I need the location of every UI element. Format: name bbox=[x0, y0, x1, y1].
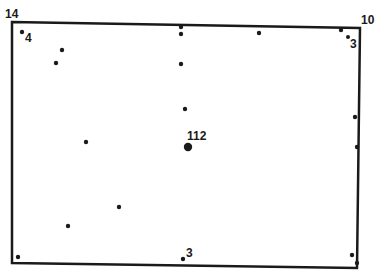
data-point bbox=[355, 145, 359, 149]
data-point bbox=[66, 224, 70, 228]
data-point bbox=[54, 61, 58, 65]
point-count-label: 3 bbox=[350, 37, 357, 51]
data-point bbox=[350, 253, 354, 257]
data-point bbox=[16, 255, 20, 259]
data-point bbox=[353, 115, 357, 119]
corner-label-top-left: 14 bbox=[5, 7, 19, 21]
data-point bbox=[183, 107, 187, 111]
data-point bbox=[355, 261, 359, 265]
data-point bbox=[179, 32, 183, 36]
data-point bbox=[179, 62, 183, 66]
data-point bbox=[257, 31, 261, 35]
data-point bbox=[184, 143, 192, 151]
data-point bbox=[117, 205, 121, 209]
data-point bbox=[339, 28, 343, 32]
point-count-label: 3 bbox=[186, 246, 193, 260]
data-point bbox=[179, 25, 183, 29]
data-point bbox=[84, 140, 88, 144]
points-layer bbox=[16, 25, 359, 265]
data-point bbox=[60, 48, 64, 52]
point-count-label: 4 bbox=[25, 31, 32, 45]
data-point bbox=[20, 30, 24, 34]
point-distribution-diagram: 1410 431123 bbox=[0, 0, 381, 277]
corner-label-top-right: 10 bbox=[361, 13, 375, 27]
point-count-label: 112 bbox=[187, 129, 207, 143]
data-point bbox=[181, 257, 185, 261]
